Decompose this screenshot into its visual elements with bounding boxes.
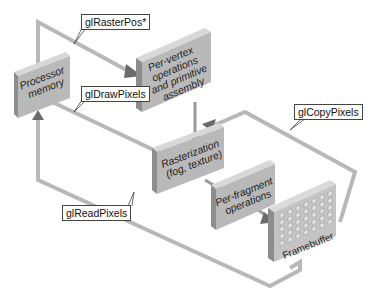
- callout-pointer: [74, 28, 86, 44]
- callout-pointer: [128, 192, 134, 206]
- gl-copy-pixels-label: glCopyPixels: [294, 104, 363, 120]
- gl-raster-pos-label: glRasterPos*: [81, 14, 150, 30]
- gl-draw-pixels-label: glDrawPixels: [81, 86, 150, 102]
- gl-read-pixels-label: glReadPixels: [62, 205, 131, 221]
